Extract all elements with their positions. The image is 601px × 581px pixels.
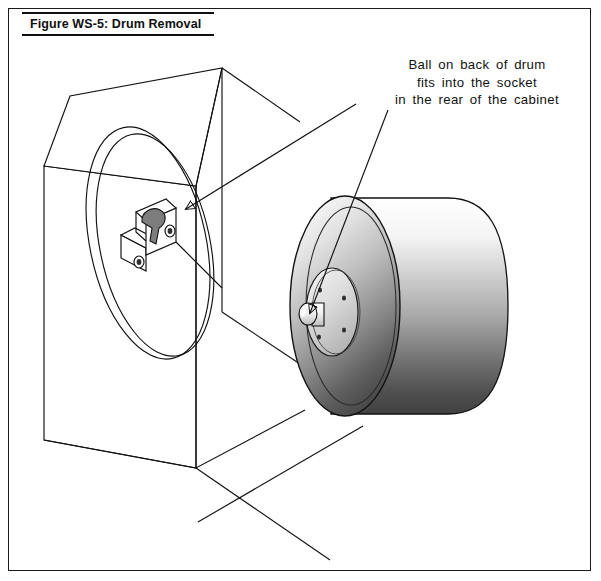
cabinet-rear-base-edge [222,312,300,364]
leader-line-drum-base [198,426,363,522]
callout-line-2: fits into the socket [358,74,596,92]
drum-ball-stud [299,303,324,326]
figure-title-block: Figure WS-5: Drum Removal [22,12,214,36]
callout-line-1: Ball on back of drum [358,56,596,74]
cabinet-wireframe [44,68,330,560]
callout-line-3: in the rear of the cabinet [358,91,596,109]
cabinet-top-far-edge [222,68,300,122]
page-title: Figure WS-5: Drum Removal [30,17,210,31]
figure-container: Figure WS-5: Drum Removal Ball on back o… [0,0,601,581]
leader-line-to-socket [186,104,356,209]
drum [290,196,508,416]
ball-highlight [300,307,306,317]
hub-bolt-hole-2 [342,295,346,300]
hub-bolt-hole-3 [342,327,346,332]
hub-bolt-hole-4 [317,334,321,339]
callout-annotation: Ball on back of drum fits into the socke… [358,56,596,109]
floor-front-edge [196,468,330,560]
